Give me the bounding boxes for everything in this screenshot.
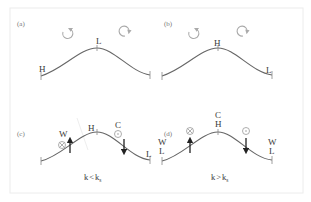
- label-low-c: L: [146, 149, 152, 159]
- clockwise-rotation-icon: [237, 26, 247, 36]
- label-warm-c: W: [59, 129, 68, 139]
- scan-artifact: [77, 118, 88, 150]
- condition-c: k<ks: [84, 172, 101, 183]
- condition-d: k>ks: [211, 172, 228, 183]
- panel-tag-a: (a): [17, 20, 25, 28]
- panel-a: (a) H L: [17, 20, 150, 80]
- panel-d: (d) W L C H W L k>ks: [158, 110, 277, 183]
- label-high-peak-c: H: [88, 123, 95, 133]
- label-low-left-d: L: [159, 146, 165, 156]
- panel-c: (c) H W C L k<ks: [17, 120, 152, 183]
- out-of-page-icon: [243, 128, 250, 135]
- label-low-b: L: [266, 65, 272, 75]
- panel-b: (b) H L: [162, 20, 272, 80]
- figure: (a) H L (b) H L (c) H W C L: [0, 0, 311, 202]
- label-low-peak-a: L: [96, 36, 102, 46]
- wave-curve-d: [162, 132, 272, 161]
- label-high-a: H: [39, 64, 46, 74]
- label-low-right-d: L: [269, 146, 275, 156]
- into-page-icon: [187, 128, 194, 135]
- counterclockwise-rotation-icon: [63, 29, 73, 38]
- wave-curve-a: [41, 48, 150, 76]
- counterclockwise-rotation-icon: [189, 29, 199, 38]
- out-of-page-icon: [115, 131, 122, 138]
- panel-tag-c: (c): [17, 130, 25, 138]
- panel-tag-b: (b): [164, 20, 173, 28]
- into-page-icon: [59, 142, 66, 149]
- label-high-peak-d: H: [215, 119, 222, 129]
- wave-curve-c: [41, 132, 150, 161]
- label-high-peak-b: H: [214, 38, 221, 48]
- label-cold-c: C: [115, 120, 121, 130]
- clockwise-rotation-icon: [119, 26, 129, 36]
- figure-frame: [10, 8, 303, 193]
- wave-curve-b: [162, 48, 272, 76]
